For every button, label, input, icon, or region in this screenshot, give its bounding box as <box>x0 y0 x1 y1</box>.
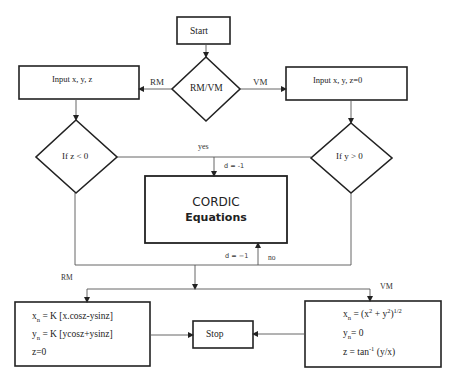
start-label: Start <box>190 27 208 37</box>
edge-label-vm-top: VM <box>253 78 268 87</box>
edge-label-rm-top: RM <box>150 78 164 87</box>
stop-label: Stop <box>206 330 223 340</box>
edge-label-vm-bottom: VM <box>380 283 393 291</box>
input-vm-label: Input x, y, z=0 <box>313 76 362 85</box>
edge-label-rm-bottom: RM <box>61 274 73 282</box>
output-rm-line-1: xn = K [x.cosz-ysinz] <box>32 312 113 322</box>
superscript: 1/2 <box>394 307 402 314</box>
edge-label-yes: yes <box>198 143 209 151</box>
expr: = K [x.cosz-ysinz] <box>40 311 113 321</box>
cordic-label-block: CORDIC Equations <box>145 176 287 243</box>
output-vm-line-3: z = tan-1 (y/x) <box>343 348 395 358</box>
output-vm-line-1: xn = (x2 + y2)1/2 <box>343 310 402 320</box>
decision-y-label: If y > 0 <box>336 152 363 161</box>
edge-label-d-top: d = -1 <box>224 163 244 170</box>
output-rm-line-3: z=0 <box>32 348 46 358</box>
expr: = 0 <box>351 328 363 338</box>
expr: = (x <box>351 309 369 319</box>
mode-decision-label: RM/VM <box>190 84 223 94</box>
expr: = K [ycosz+ysinz] <box>40 329 113 339</box>
cordic-title: CORDIC <box>192 195 239 210</box>
output-vm-line-2: yn= 0 <box>343 329 363 339</box>
expr: + y <box>372 309 387 319</box>
input-rm-label: Input x, y, z <box>52 75 92 84</box>
edge-label-no: no <box>268 254 276 262</box>
expr: z = tan <box>343 347 369 357</box>
edge-label-d-bottom: d = −1 <box>225 253 248 260</box>
output-rm-line-2: yn = K [ycosz+ysinz] <box>32 330 113 340</box>
cordic-subtitle: Equations <box>185 210 247 225</box>
decision-z-label: If z < 0 <box>62 152 88 161</box>
expr: (y/x) <box>374 347 395 357</box>
